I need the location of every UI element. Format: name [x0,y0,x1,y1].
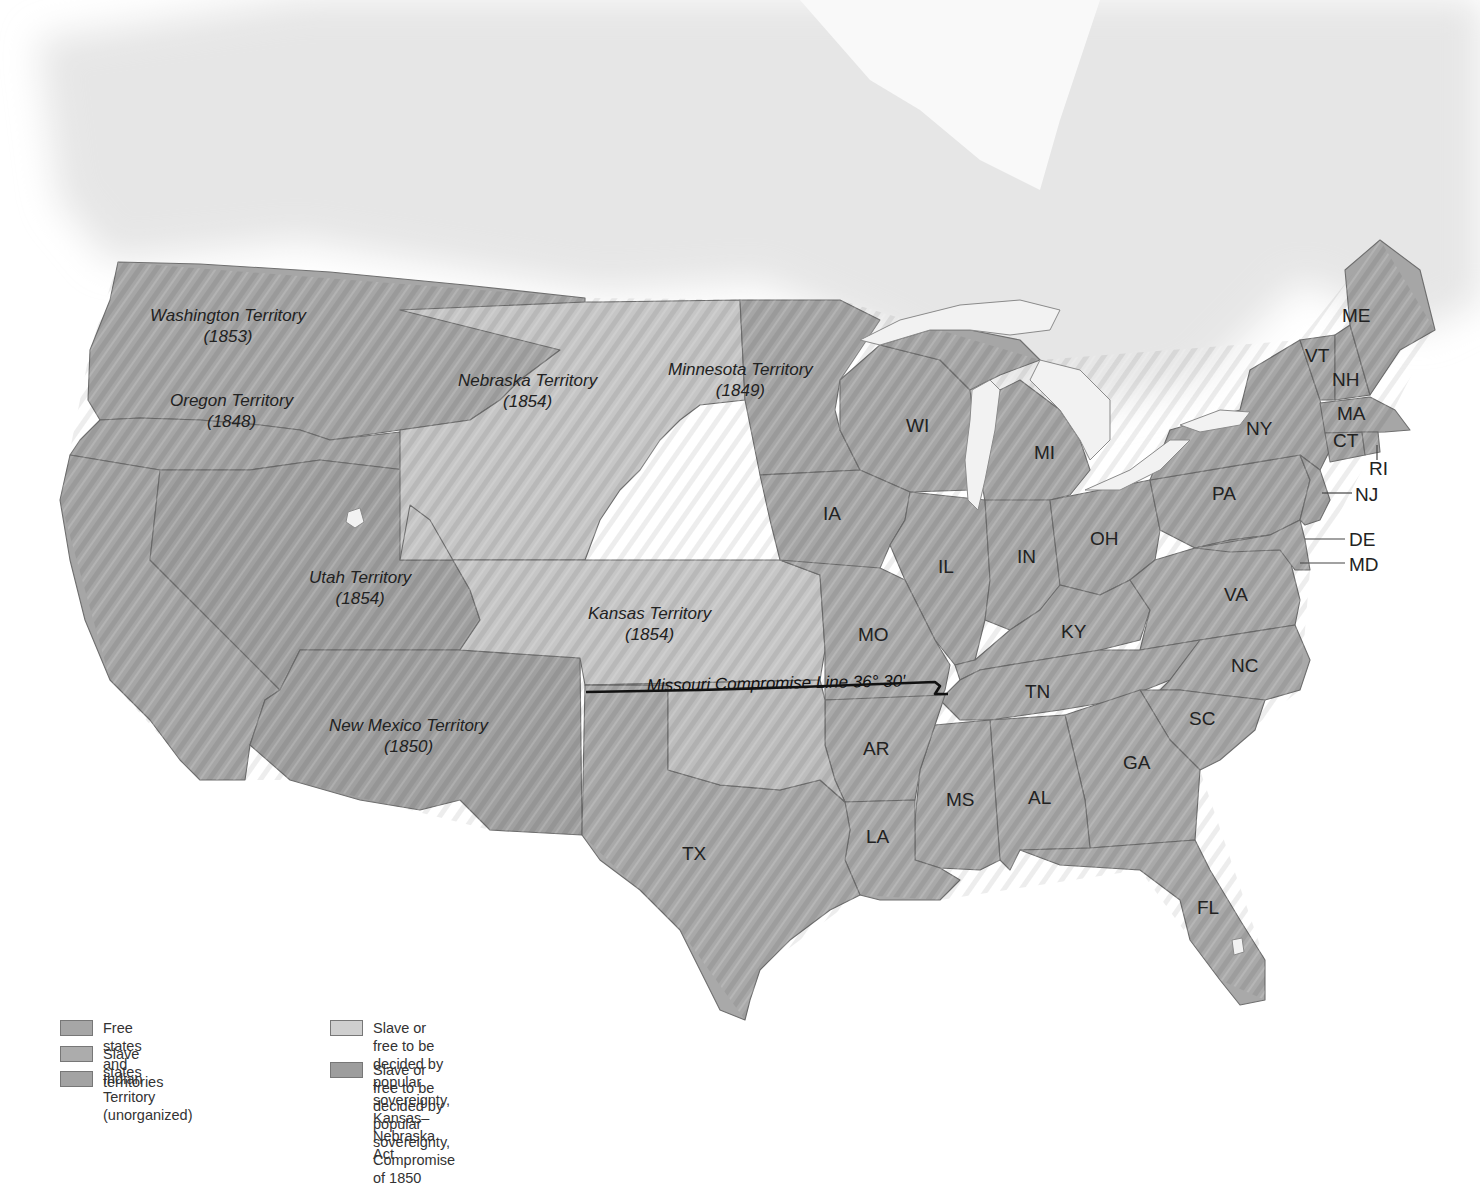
label-washington-territory: Washington Territory(1853) [150,305,306,347]
label-state-de: DE [1349,530,1375,549]
label-state-va: VA [1224,585,1248,604]
label-state-ny: NY [1246,419,1272,438]
label-state-ky: KY [1061,622,1086,641]
label-state-mo: MO [858,625,889,644]
label-state-pa: PA [1212,484,1236,503]
legend-label-c1850-line2: sovereignty, Compromise of 1850 [373,1133,455,1187]
label-state-nc: NC [1231,656,1258,675]
relief-texture [60,240,1435,1020]
legend-swatch-kansas-nebraska [330,1020,363,1036]
legend-swatch-free [60,1020,93,1036]
label-state-sc: SC [1189,709,1215,728]
label-state-me: ME [1342,306,1371,325]
label-state-ia: IA [823,504,841,523]
label-state-ar: AR [863,739,889,758]
label-state-mi: MI [1034,443,1055,462]
label-utah-territory: Utah Territory(1854) [309,567,411,609]
label-state-ga: GA [1123,753,1150,772]
label-state-wi: WI [906,416,929,435]
label-oregon-territory: Oregon Territory(1848) [170,390,293,432]
label-state-fl: FL [1197,898,1219,917]
legend-item-compromise-1850: Slave or free to be decided by popular s… [330,1061,455,1187]
label-minnesota-territory: Minnesota Territory(1849) [668,359,813,401]
label-state-tx: TX [682,844,706,863]
label-kansas-territory: Kansas Territory(1854) [588,603,711,645]
label-state-nh: NH [1332,370,1359,389]
label-state-la: LA [866,827,889,846]
label-new-mexico-territory: New Mexico Territory(1850) [329,715,488,757]
label-state-al: AL [1028,788,1051,807]
label-state-nj: NJ [1355,485,1378,504]
label-state-in: IN [1017,547,1036,566]
label-nebraska-territory: Nebraska Territory(1854) [458,370,597,412]
legend-swatch-indian [60,1071,93,1087]
label-state-ma: MA [1337,404,1366,423]
legend-label-c1850-line1: Slave or free to be decided by popular [373,1061,455,1133]
label-state-ms: MS [946,790,975,809]
legend-swatch-compromise-1850 [330,1062,363,1078]
label-state-ct: CT [1333,431,1358,450]
label-state-md: MD [1349,555,1379,574]
label-state-ri: RI [1369,459,1388,478]
label-state-tn: TN [1025,682,1050,701]
lake-okeechobee [1232,938,1244,955]
label-state-vt: VT [1305,346,1329,365]
label-state-il: IL [938,557,954,576]
legend-label-indian: Indian Territory (unorganized) [103,1070,192,1124]
legend-item-indian: Indian Territory (unorganized) [60,1070,192,1124]
label-state-oh: OH [1090,529,1119,548]
legend-swatch-slave [60,1046,93,1062]
